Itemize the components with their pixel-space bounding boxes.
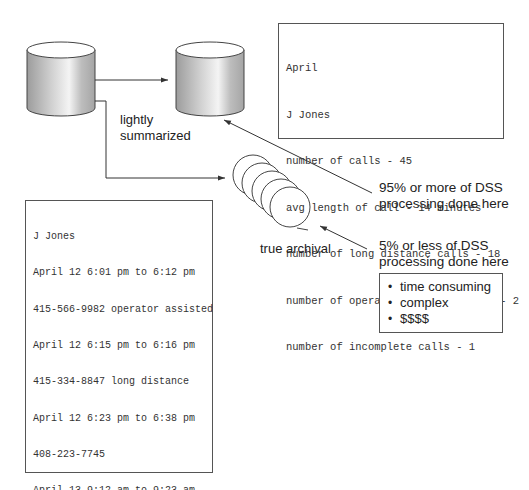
detail-line: 415-566-9982 operator assisted <box>33 304 212 316</box>
note-item: complex <box>388 295 502 311</box>
detail-line: April 12 6:01 pm to 6:12 pm <box>33 267 212 279</box>
detail-line: April 13 9:12 am to 9:23 am <box>33 485 212 490</box>
detail-line: April 12 6:15 pm to 6:16 pm <box>33 340 212 352</box>
detail-line: 408-223-7745 <box>33 449 212 461</box>
summary-line: number of calls - 45 <box>286 154 503 170</box>
lightly-summarized-cylinder-icon <box>176 42 244 116</box>
call-detail-box: J Jones April 12 6:01 pm to 6:12 pm 415-… <box>25 200 213 473</box>
archival-notes-list: time consuming complex $$$$ <box>388 279 502 327</box>
detail-line: April 12 6:23 pm to 6:38 pm <box>33 413 212 425</box>
summary-line: April <box>286 61 503 77</box>
label-line: 5% or less of DSS <box>379 238 509 254</box>
label-line: summarized <box>120 128 191 144</box>
data-warehouse-diagram: April J Jones number of calls - 45 avg l… <box>0 0 529 490</box>
summary-line: number of incomplete calls - 1 <box>286 340 503 356</box>
monthly-summary-box: April J Jones number of calls - 45 avg l… <box>278 23 504 139</box>
summary-line: J Jones <box>286 108 503 124</box>
lightly-summarized-label: lightly summarized <box>120 112 191 144</box>
label-line: 95% or more of DSS <box>379 180 509 196</box>
detail-line: 415-334-8847 long distance <box>33 376 212 388</box>
archival-notes-box: time consuming complex $$$$ <box>379 273 503 333</box>
detailed-data-cylinder-icon <box>27 42 95 116</box>
note-item: $$$$ <box>388 311 502 327</box>
dss-95-label: 95% or more of DSS processing done here <box>379 180 509 212</box>
label-line: lightly <box>120 112 191 128</box>
label-line: processing done here <box>379 254 509 270</box>
detail-line: J Jones <box>33 231 212 243</box>
dss-5-label: 5% or less of DSS processing done here <box>379 238 509 270</box>
label-line: processing done here <box>379 196 509 212</box>
note-item: time consuming <box>388 279 502 295</box>
true-archival-label: true archival <box>260 241 331 257</box>
